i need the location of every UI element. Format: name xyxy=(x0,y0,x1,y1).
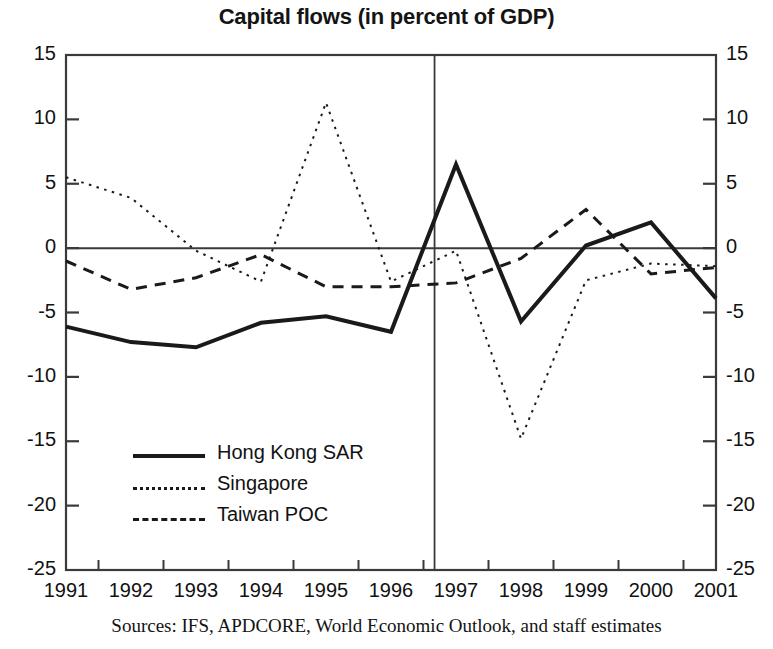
y-axis-tick-label-left: -25 xyxy=(0,557,56,580)
y-axis-tick-label-right: -25 xyxy=(726,557,773,580)
source-note: Sources: IFS, APDCORE, World Economic Ou… xyxy=(0,615,773,637)
y-axis-tick-label-right: -5 xyxy=(726,300,773,323)
x-axis-tick-label: 1997 xyxy=(420,579,492,602)
legend-item[interactable]: Singapore xyxy=(133,472,393,503)
legend-item[interactable]: Taiwan POC xyxy=(133,503,393,534)
x-axis-tick-label: 1991 xyxy=(30,579,102,602)
capital-flows-figure: Capital flows (in percent of GDP) 151050… xyxy=(0,0,773,649)
y-axis-tick-label-left: 5 xyxy=(0,171,56,194)
legend-swatch-solid xyxy=(133,454,205,458)
legend-item[interactable]: Hong Kong SAR xyxy=(133,441,393,472)
series-line-1 xyxy=(66,103,716,439)
y-axis-tick-label-left: -15 xyxy=(0,428,56,451)
x-axis-tick-label: 1998 xyxy=(485,579,557,602)
legend-label: Singapore xyxy=(217,472,308,495)
series-line-0 xyxy=(66,164,716,347)
legend-swatch-dashed xyxy=(133,518,205,521)
x-axis-tick-label: 1996 xyxy=(355,579,427,602)
x-axis-tick-label: 2000 xyxy=(615,579,687,602)
x-axis-tick-label: 1999 xyxy=(550,579,622,602)
series-line-2 xyxy=(66,210,716,290)
y-axis-tick-label-right: 10 xyxy=(726,106,773,129)
y-axis-tick-label-left: 0 xyxy=(0,235,56,258)
y-axis-tick-label-left: -20 xyxy=(0,493,56,516)
legend-label: Hong Kong SAR xyxy=(217,441,364,464)
y-axis-tick-label-right: 0 xyxy=(726,235,773,258)
y-axis-tick-label-right: -10 xyxy=(726,364,773,387)
x-axis-tick-label: 2001 xyxy=(680,579,752,602)
legend-swatch-dotted xyxy=(133,487,205,490)
x-axis-tick-label: 1992 xyxy=(95,579,167,602)
y-axis-tick-label-left: -10 xyxy=(0,364,56,387)
x-axis-tick-label: 1994 xyxy=(225,579,297,602)
y-axis-tick-label-right: 15 xyxy=(726,42,773,65)
x-axis-tick-label: 1993 xyxy=(160,579,232,602)
y-axis-tick-label-right: 5 xyxy=(726,171,773,194)
chart-legend: Hong Kong SARSingaporeTaiwan POC xyxy=(133,441,393,534)
y-axis-tick-label-right: -15 xyxy=(726,428,773,451)
chart-plot-area xyxy=(0,0,773,649)
y-axis-tick-label-left: -5 xyxy=(0,300,56,323)
y-axis-tick-label-right: -20 xyxy=(726,493,773,516)
y-axis-tick-label-left: 10 xyxy=(0,106,56,129)
y-axis-tick-label-left: 15 xyxy=(0,42,56,65)
x-axis-tick-label: 1995 xyxy=(290,579,362,602)
legend-label: Taiwan POC xyxy=(217,503,328,526)
